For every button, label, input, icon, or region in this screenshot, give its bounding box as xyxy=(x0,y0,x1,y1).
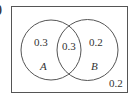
a-only-value: 0.3 xyxy=(34,36,48,48)
b-only-value: 0.2 xyxy=(89,36,103,48)
outside-value: 0.2 xyxy=(109,77,123,89)
set-a-label: A xyxy=(39,60,47,72)
set-b-label: B xyxy=(91,60,98,72)
intersection-value: 0.3 xyxy=(62,40,76,52)
venn-diagram: 0.3 A 0.3 0.2 B 0.2 xyxy=(0,0,133,95)
